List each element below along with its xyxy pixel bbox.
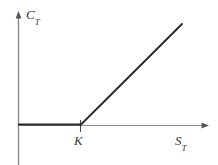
payoff-rising-segment xyxy=(81,24,183,125)
x-axis-label-base: S xyxy=(175,133,182,148)
y-axis-arrowhead xyxy=(16,11,22,19)
y-axis-label: CT xyxy=(26,6,40,25)
y-axis-label-base: C xyxy=(26,7,35,22)
x-axis-label-subscript: T xyxy=(182,143,187,153)
call-payoff-diagram: CT ST K xyxy=(0,0,218,165)
x-axis-label: ST xyxy=(175,132,187,151)
x-axis-arrowhead xyxy=(202,123,210,129)
y-axis-label-subscript: T xyxy=(35,17,40,27)
strike-label: K xyxy=(74,134,83,147)
